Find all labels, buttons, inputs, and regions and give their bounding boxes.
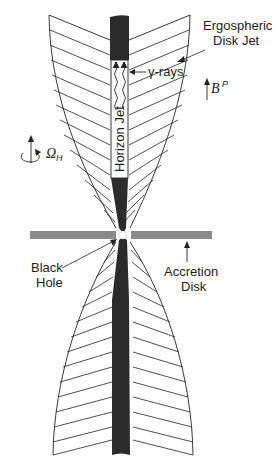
accretion-label-line2: Disk [181,279,207,294]
ergospheric-label-line2: Disk Jet [213,33,260,48]
ergospheric-label-line1: Ergospheric [203,18,273,33]
black-hole-label-line2: Hole [36,275,63,290]
rotation-annotation: Ω H [21,135,63,163]
accretion-label-line1: Accretion [164,264,218,279]
ergospheric-annotation: Ergospheric Disk Jet [177,18,273,62]
black-hole-jet-diagram: Horizon Jet γ-rays Ergospheric Disk Jet … [0,0,277,466]
horizon-jet-label: Horizon Jet [112,106,127,172]
accretion-disk-annotation: Accretion Disk [164,241,218,294]
b-field-superscript: P [222,79,228,89]
omega-subscript: H [56,153,63,163]
gamma-rays-label: γ-rays [148,64,184,79]
b-field-label: B [211,81,220,96]
black-hole [119,231,127,239]
magnetic-field-annotation: B P [204,78,228,100]
black-hole-label-line1: Black [31,260,63,275]
omega-label: Ω [46,146,56,161]
